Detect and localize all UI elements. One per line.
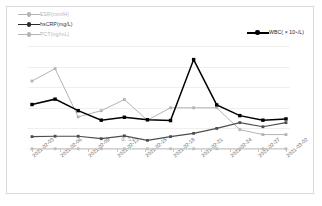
series-marker [123, 98, 126, 101]
series-marker [169, 119, 172, 122]
series-marker [30, 103, 33, 106]
series-marker [238, 128, 241, 131]
series-marker [54, 67, 57, 70]
series-marker [146, 147, 149, 150]
chart-legend: ESR(mm/H) hsCRP(mg/L) PCT(ng/mL) [18, 10, 138, 40]
series-marker [54, 135, 57, 138]
legend-label-esr: ESR(mm/H) [40, 10, 69, 19]
series-marker [215, 147, 218, 150]
series-marker [215, 127, 218, 130]
legend-item-hscrp[interactable]: hsCRP(mg/L) [18, 20, 138, 29]
series-marker [238, 114, 241, 117]
line-marker-icon [18, 10, 40, 19]
series-marker [169, 106, 172, 109]
series-marker [285, 147, 288, 150]
series-marker [100, 118, 103, 121]
series-marker [77, 147, 80, 150]
legend-label-wbc: WBC( × 10⁹/L) [269, 28, 304, 37]
series-marker [169, 135, 172, 138]
series-marker [123, 147, 126, 150]
series-marker [192, 58, 195, 61]
series-marker [54, 147, 57, 150]
line-marker-icon [18, 20, 40, 29]
series-marker [77, 115, 80, 118]
series-marker [100, 137, 103, 140]
series-marker [238, 121, 241, 124]
series-marker [31, 135, 34, 138]
series-marker [215, 106, 218, 109]
series-lines [28, 46, 290, 149]
x-axis-tick-mark [88, 149, 89, 152]
series-marker [261, 118, 264, 121]
series-marker [100, 109, 103, 112]
legend-item-wbc[interactable]: WBC( × 10⁹/L) [247, 28, 304, 37]
legend-item-pct[interactable]: PCT(ng/mL) [18, 30, 138, 39]
series-marker [100, 147, 103, 150]
series-marker [169, 147, 172, 150]
series-marker [31, 147, 34, 150]
series-marker [53, 97, 56, 100]
x-axis-tick-mark [173, 149, 174, 152]
series-marker [262, 147, 265, 150]
series-marker [285, 133, 288, 136]
x-axis-tick-mark [258, 149, 259, 152]
series-marker [284, 117, 287, 120]
x-axis-tick-mark [201, 149, 202, 152]
series-line [32, 60, 286, 121]
series-marker [262, 133, 265, 136]
series-marker [31, 80, 34, 83]
series-marker [146, 139, 149, 142]
series-marker [192, 132, 195, 135]
series-marker [238, 147, 241, 150]
series-marker [146, 118, 149, 121]
line-marker-icon [18, 30, 40, 39]
series-line [32, 69, 286, 135]
series-marker [262, 125, 265, 128]
legend-label-hscrp: hsCRP(mg/L) [40, 20, 73, 29]
line-marker-icon [247, 28, 269, 37]
series-marker [76, 109, 79, 112]
series-marker [77, 135, 80, 138]
plot-area: 050100150200250 0510152025 2021-02-03202… [28, 46, 290, 149]
x-axis-tick-mark [145, 149, 146, 152]
chart-figure: ESR(mm/H) hsCRP(mg/L) PCT(ng/mL) WBC( × … [0, 0, 322, 206]
legend-item-esr[interactable]: ESR(mm/H) [18, 10, 138, 19]
series-marker [123, 116, 126, 119]
series-marker [215, 103, 218, 106]
x-axis-tick-mark [117, 149, 118, 152]
series-marker [285, 121, 288, 124]
series-marker [192, 106, 195, 109]
data-label: 0. 53 [121, 135, 134, 142]
x-axis-tick-mark [230, 149, 231, 152]
x-axis-tick-mark [60, 149, 61, 152]
series-marker [192, 147, 195, 150]
legend-label-pct: PCT(ng/mL) [40, 30, 69, 39]
